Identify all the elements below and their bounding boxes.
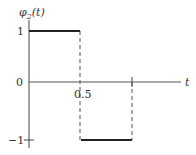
y-tick-label-minus-one: −1 (8, 134, 24, 147)
x-tick-label-half: 0.5 (74, 88, 92, 101)
y-tick-label-one: 1 (17, 25, 24, 38)
x-axis-label: t (185, 76, 190, 89)
y-tick-label-zero: 0 (16, 76, 23, 89)
y-axis-label: φ2(t) (19, 6, 45, 21)
phi2-step-chart: φ2(t) 1 0 −1 0.5 t (0, 0, 196, 155)
